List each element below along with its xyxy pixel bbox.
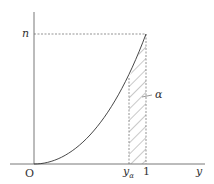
label-origin: O xyxy=(25,168,34,179)
diagram-svg xyxy=(0,0,214,184)
label-alpha: α xyxy=(155,89,162,100)
diagram: n O y yα 1 α xyxy=(0,0,214,184)
label-n: n xyxy=(22,28,29,39)
label-y-alpha: yα xyxy=(123,166,134,180)
label-y-axis: y xyxy=(196,166,202,177)
label-one: 1 xyxy=(143,166,150,177)
